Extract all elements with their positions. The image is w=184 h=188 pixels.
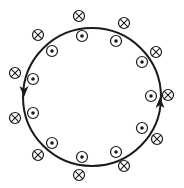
field-out-of-page-markers bbox=[28, 31, 157, 163]
current-loop-diagram bbox=[0, 0, 184, 188]
field-out-marker-icon bbox=[77, 152, 88, 163]
field-in-marker-icon bbox=[163, 90, 174, 101]
field-out-marker-icon bbox=[77, 31, 88, 42]
field-out-marker-icon bbox=[111, 36, 122, 47]
field-out-marker-icon bbox=[137, 57, 148, 68]
field-out-marker-icon bbox=[28, 108, 39, 119]
field-out-marker-icon bbox=[146, 91, 157, 102]
field-in-marker-icon bbox=[10, 68, 21, 79]
current-loop bbox=[23, 28, 161, 166]
current-direction-arrows bbox=[20, 86, 165, 108]
field-in-marker-icon bbox=[74, 11, 85, 22]
field-in-marker-icon bbox=[10, 113, 21, 124]
field-in-marker-icon bbox=[33, 30, 44, 41]
field-out-marker-icon bbox=[47, 46, 58, 57]
field-in-marker-icon bbox=[74, 170, 85, 181]
field-out-marker-icon bbox=[111, 147, 122, 158]
field-in-marker-icon bbox=[33, 150, 44, 161]
field-in-marker-icon bbox=[151, 47, 162, 58]
field-out-marker-icon bbox=[47, 138, 58, 149]
field-out-marker-icon bbox=[137, 123, 148, 134]
field-out-marker-icon bbox=[28, 74, 39, 85]
field-in-marker-icon bbox=[119, 18, 130, 29]
field-in-marker-icon bbox=[119, 161, 130, 172]
loop-circle bbox=[23, 28, 161, 166]
field-in-marker-icon bbox=[152, 134, 163, 145]
